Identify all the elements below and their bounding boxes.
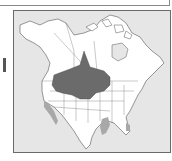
wintering-range-florida (126, 123, 130, 131)
north-america-map (14, 11, 170, 152)
range-map (13, 10, 171, 153)
top-panel-border (0, 0, 170, 6)
side-marker (3, 58, 6, 72)
